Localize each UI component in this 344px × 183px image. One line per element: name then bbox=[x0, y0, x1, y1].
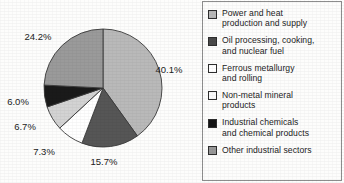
pie-chart-area: 40.1%15.7%7.3%6.7%6.0%24.2% bbox=[0, 0, 200, 183]
legend-label-non-metal-mineral: Non-metal mineral products bbox=[222, 90, 293, 111]
pie-chart-figure: 40.1%15.7%7.3%6.7%6.0%24.2% Power and he… bbox=[0, 0, 344, 183]
legend-label-other-industrial: Other industrial sectors bbox=[222, 145, 312, 155]
chart-legend: Power and heat production and supplyOil … bbox=[202, 1, 342, 181]
legend-swatch-oil-processing bbox=[208, 37, 217, 46]
pie-label-non-metal-mineral: 6.7% bbox=[14, 121, 36, 132]
legend-swatch-industrial-chemicals bbox=[208, 119, 217, 128]
legend-swatch-power-and-heat bbox=[208, 10, 217, 19]
pie-label-power-and-heat: 40.1% bbox=[156, 64, 183, 75]
legend-item-industrial-chemicals[interactable]: Industrial chemicals and chemical produc… bbox=[208, 117, 337, 138]
pie-chart-svg: 40.1%15.7%7.3%6.7%6.0%24.2% bbox=[0, 0, 200, 183]
pie-slice-group bbox=[44, 29, 162, 147]
legend-swatch-other-industrial bbox=[208, 146, 217, 155]
pie-slice-other-industrial[interactable] bbox=[44, 29, 103, 88]
legend-label-power-and-heat: Power and heat production and supply bbox=[222, 8, 307, 29]
pie-label-ferrous-metallurgy: 7.3% bbox=[33, 146, 55, 157]
legend-label-industrial-chemicals: Industrial chemicals and chemical produc… bbox=[222, 117, 309, 138]
pie-label-other-industrial: 24.2% bbox=[25, 31, 52, 42]
legend-item-oil-processing[interactable]: Oil processing, cooking, and nuclear fue… bbox=[208, 35, 337, 56]
legend-swatch-non-metal-mineral bbox=[208, 91, 217, 100]
legend-item-power-and-heat[interactable]: Power and heat production and supply bbox=[208, 8, 337, 29]
legend-label-ferrous-metallurgy: Ferrous metallurgy and rolling bbox=[222, 63, 295, 84]
legend-item-list: Power and heat production and supplyOil … bbox=[208, 8, 337, 155]
legend-item-other-industrial[interactable]: Other industrial sectors bbox=[208, 145, 337, 156]
legend-item-ferrous-metallurgy[interactable]: Ferrous metallurgy and rolling bbox=[208, 63, 337, 84]
legend-item-non-metal-mineral[interactable]: Non-metal mineral products bbox=[208, 90, 337, 111]
pie-label-oil-processing: 15.7% bbox=[91, 156, 118, 167]
legend-swatch-ferrous-metallurgy bbox=[208, 64, 217, 73]
pie-label-industrial-chemicals: 6.0% bbox=[7, 96, 29, 107]
legend-label-oil-processing: Oil processing, cooking, and nuclear fue… bbox=[222, 35, 314, 56]
